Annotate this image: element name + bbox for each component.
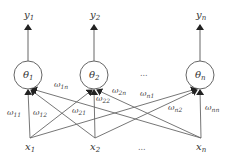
edge-xn-thetan [200,90,201,138]
input-label-x2: x2 [90,141,101,154]
weight-connections [28,89,201,138]
weight-label-w12: ω12 [33,108,47,118]
output-arrows [28,25,200,61]
neuron-theta1: θ1 [14,61,42,89]
neuron-ellipsis: ... [140,69,148,78]
edge-x2-theta2 [94,90,95,138]
neuron-theta2: θ2 [80,61,108,89]
output-label-y2: y2 [89,9,101,22]
weight-label-wnn: ωnn [205,103,219,113]
edge-x1-theta1 [28,90,30,138]
weight-label-w1n: ω1n [54,80,68,90]
output-label-yn: yn [195,9,207,22]
edge-xn-theta1 [32,89,201,138]
weight-label-w2n: ω2n [112,86,126,96]
input-ellipsis: ... [138,143,146,152]
weight-label-w21: ω21 [72,106,86,116]
weight-label-wn1: ωn1 [140,89,154,99]
output-label-y1: y1 [23,9,34,22]
weight-label-wn2: ωn2 [168,103,182,113]
input-label-xn: xn [196,141,207,154]
weight-label-w11: ω11 [7,108,21,118]
input-label-x1: x1 [25,141,35,154]
neural-network-diagram: y1 y2 yn θ1 θ2 θn ... ω11 ω12 ω1n ω21 ω2… [0,0,230,163]
edge-x1-thetan [30,89,196,138]
neuron-thetan: θn [186,61,214,89]
